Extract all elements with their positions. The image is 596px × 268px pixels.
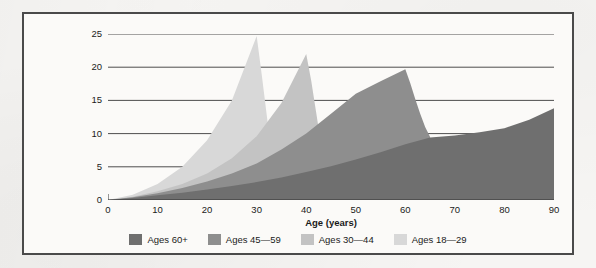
x-axis-tick-label: 90 (541, 204, 567, 215)
y-axis-tick-label: 20 (76, 61, 102, 72)
y-axis-title-line-2: depression (%) (23, 0, 34, 24)
plot-area (108, 34, 554, 200)
y-axis-tick-label: 10 (76, 128, 102, 139)
legend-item[interactable]: Ages 45—59 (208, 234, 281, 245)
legend-swatch (129, 234, 142, 245)
x-axis-tick-label: 10 (145, 204, 171, 215)
legend-item[interactable]: Ages 60+ (129, 234, 187, 245)
x-axis-tick-label: 50 (343, 204, 369, 215)
x-axis-tick-label: 20 (194, 204, 220, 215)
y-axis-tick-label: 5 (76, 161, 102, 172)
y-axis-tick-label: 15 (76, 94, 102, 105)
legend-item[interactable]: Ages 30—44 (301, 234, 374, 245)
x-axis-tick-label: 40 (293, 204, 319, 215)
chart-legend: Ages 60+Ages 45—59Ages 30—44Ages 18—29 (24, 234, 572, 245)
legend-swatch (394, 234, 407, 245)
legend-label: Ages 18—29 (412, 234, 467, 245)
figure-frame: Lifetime prevalence of depression (%) 05… (22, 12, 574, 255)
legend-label: Ages 45—59 (226, 234, 281, 245)
legend-item[interactable]: Ages 18—29 (394, 234, 467, 245)
legend-swatch (208, 234, 221, 245)
x-axis-tick-labels: 0102030405060708090 (108, 204, 554, 218)
y-axis-tick-label: 25 (76, 28, 102, 39)
area-chart-svg (108, 34, 554, 200)
y-axis-title-line-1: Lifetime prevalence of (12, 0, 23, 24)
y-axis-title: Lifetime prevalence of depression (%) (12, 0, 28, 24)
x-axis-tick-label: 30 (244, 204, 270, 215)
x-axis-tick-label: 60 (392, 204, 418, 215)
x-axis-tick-label: 70 (442, 204, 468, 215)
y-axis-tick-labels: 0510152025 (72, 34, 102, 200)
x-axis-tick-label: 80 (491, 204, 517, 215)
legend-label: Ages 60+ (147, 234, 187, 245)
legend-label: Ages 30—44 (319, 234, 374, 245)
x-axis-title: Age (years) (108, 217, 554, 228)
x-axis-tick-label: 0 (95, 204, 121, 215)
legend-swatch (301, 234, 314, 245)
